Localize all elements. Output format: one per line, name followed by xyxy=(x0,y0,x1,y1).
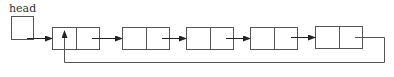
linked-list-diagram xyxy=(0,0,394,77)
node-4 xyxy=(251,28,298,50)
head-pointer-box xyxy=(12,17,34,40)
back-link-arrow xyxy=(65,31,385,63)
